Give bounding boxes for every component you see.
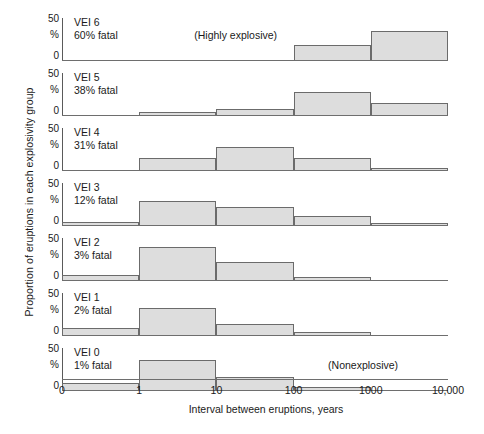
panel-vei-1: 50%0VEI 12% fatal (0, 289, 484, 344)
x-axis-line (62, 379, 448, 380)
bar (294, 92, 371, 115)
panel-fatality-label: 12% fatal (74, 194, 118, 207)
panel-fatality-label: 60% fatal (74, 29, 118, 42)
bar (139, 308, 216, 335)
y-tick-0: 0 (34, 271, 59, 281)
bar (371, 223, 448, 225)
panel-annotation: (Highly explosive) (194, 29, 277, 42)
panel-fatality-label: 3% fatal (74, 249, 112, 262)
bar (371, 31, 448, 60)
bar (371, 103, 448, 115)
y-tick-0: 0 (34, 106, 59, 116)
y-tick-unit: % (34, 85, 59, 95)
y-tick-0: 0 (34, 161, 59, 171)
y-tick-50: 50 (34, 289, 59, 299)
x-axis-title-text: Interval between eruptions, years (189, 403, 344, 415)
bar (371, 168, 448, 170)
x-tick-label: 100 (285, 384, 303, 396)
panel-group-label: VEI 1 (74, 291, 100, 304)
y-tick-50: 50 (34, 69, 59, 79)
y-tick-group: 50%0 (34, 289, 59, 344)
bar (294, 277, 371, 280)
x-tick-label: 1 (136, 384, 142, 396)
panel-vei-4: 50%0VEI 431% fatal (0, 124, 484, 179)
y-tick-50: 50 (34, 344, 59, 354)
y-tick-50: 50 (34, 234, 59, 244)
panel-group-label: VEI 2 (74, 236, 100, 249)
bar (139, 201, 216, 225)
panel-fatality-label: 38% fatal (74, 84, 118, 97)
y-tick-50: 50 (34, 179, 59, 189)
panel-group-label: VEI 3 (74, 181, 100, 194)
bar (294, 158, 371, 170)
bar (294, 45, 371, 60)
y-tick-50: 50 (34, 14, 59, 24)
panel-baseline (62, 225, 448, 226)
x-tick-label: 10,000 (432, 384, 464, 396)
panel-baseline (62, 280, 448, 281)
panel-fatality-label: 31% fatal (74, 139, 118, 152)
bar (216, 109, 293, 115)
panel-baseline (62, 335, 448, 336)
x-axis-title: Interval between eruptions, years (0, 403, 484, 415)
bar (216, 147, 293, 170)
bar (139, 247, 216, 280)
y-tick-50: 50 (34, 124, 59, 134)
panel-baseline (62, 60, 448, 61)
panel-vei-6: 50%0VEI 660% fatal(Highly explosive) (0, 14, 484, 69)
x-tick-label: 0 (59, 384, 65, 396)
bar (216, 324, 293, 335)
volcano-eruption-interval-chart: Proportion of eruptions in each explosiv… (0, 0, 484, 434)
bar (139, 158, 216, 170)
bar (294, 332, 371, 335)
panel-group-label: VEI 6 (74, 16, 100, 29)
y-axis-line (62, 73, 63, 116)
y-tick-0: 0 (34, 326, 59, 336)
y-tick-0: 0 (34, 216, 59, 226)
y-tick-group: 50%0 (34, 124, 59, 179)
bar (216, 207, 293, 225)
y-axis-line (62, 18, 63, 61)
panel-vei-3: 50%0VEI 312% fatal (0, 179, 484, 234)
bar (216, 262, 293, 280)
x-axis: 0110100100010,000 Interval between erupt… (0, 379, 484, 434)
panel-group-label: VEI 0 (74, 346, 100, 359)
bar (62, 275, 139, 280)
panel-fatality-label: 2% fatal (74, 304, 112, 317)
y-tick-group: 50%0 (34, 179, 59, 234)
y-axis-line (62, 128, 63, 171)
y-tick-group: 50%0 (34, 234, 59, 289)
panel-fatality-label: 1% fatal (74, 359, 112, 372)
y-tick-group: 50%0 (34, 69, 59, 124)
panel-baseline (62, 170, 448, 171)
bar (294, 216, 371, 225)
panel-group-label: VEI 4 (74, 126, 100, 139)
panel-vei-2: 50%0VEI 23% fatal (0, 234, 484, 289)
y-tick-unit: % (34, 360, 59, 370)
y-tick-unit: % (34, 30, 59, 40)
bar (62, 222, 139, 225)
y-tick-unit: % (34, 195, 59, 205)
panel-vei-5: 50%0VEI 538% fatal (0, 69, 484, 124)
y-tick-unit: % (34, 305, 59, 315)
y-tick-unit: % (34, 250, 59, 260)
panel-baseline (62, 115, 448, 116)
x-tick-label: 10 (211, 384, 223, 396)
y-tick-group: 50%0 (34, 14, 59, 69)
y-tick-unit: % (34, 140, 59, 150)
panel-group-label: VEI 5 (74, 71, 100, 84)
bar (139, 112, 216, 115)
y-axis-line (62, 183, 63, 226)
y-tick-0: 0 (34, 51, 59, 61)
x-tick-label: 1000 (359, 384, 382, 396)
panel-annotation: (Nonexplosive) (328, 359, 398, 372)
bar (62, 328, 139, 335)
